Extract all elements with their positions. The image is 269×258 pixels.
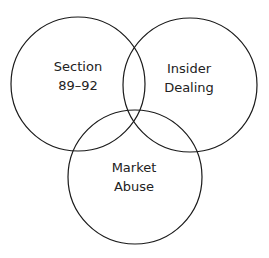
label-market-line1: Market: [112, 160, 157, 175]
circle-market-abuse: [68, 110, 202, 244]
venn-diagram: Section 89–92 Insider Dealing Market Abu…: [0, 0, 269, 258]
label-section-line1: Section: [54, 59, 102, 74]
label-section-line2: 89–92: [58, 78, 98, 93]
label-market-line2: Abuse: [114, 179, 154, 194]
label-insider-line1: Insider: [167, 61, 212, 76]
label-insider-line2: Dealing: [164, 80, 214, 95]
